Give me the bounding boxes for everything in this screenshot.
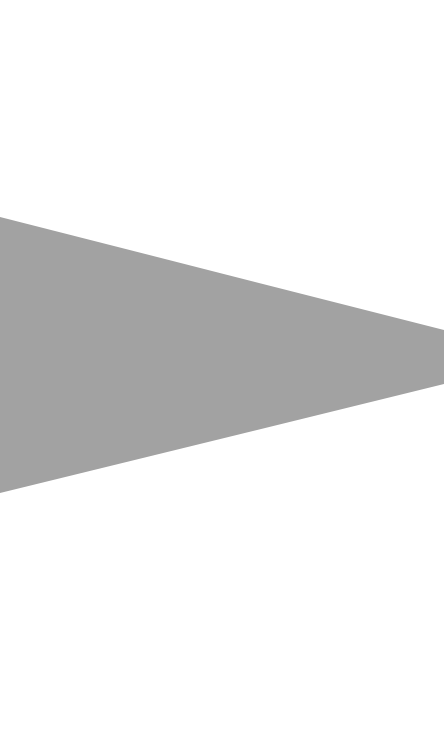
canvas (0, 0, 444, 733)
wedge-graphic (0, 0, 444, 733)
